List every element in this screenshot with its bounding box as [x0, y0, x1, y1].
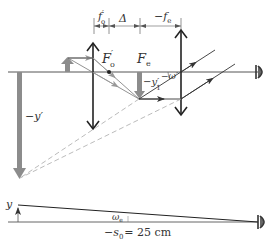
- final-image-label: −y′: [25, 110, 43, 123]
- intermediate-image-label: −y′1: [143, 76, 161, 92]
- naked-eye-ray: [18, 205, 258, 222]
- eyepiece-rays: [139, 50, 235, 99]
- focal-point-fo: [107, 70, 111, 74]
- fe-label: −fe: [154, 10, 171, 25]
- naked-eye-angle-label: ωe: [112, 212, 123, 223]
- focal-fe-label: Fe: [136, 51, 151, 68]
- final-image-arrow: [13, 72, 26, 179]
- virtual-extensions: [20, 99, 181, 178]
- fo-label: f′o: [97, 8, 105, 26]
- focal-fo-label: F′o: [101, 49, 115, 69]
- distance-label: −s0= 25 cm: [104, 226, 172, 241]
- eye-icon-bottom: [258, 215, 264, 229]
- object-arrow: [61, 57, 74, 72]
- objective-lens: [87, 43, 99, 129]
- microscope-diagram: f′o Δ −fe: [0, 0, 274, 244]
- naked-eye-comparison: [8, 205, 258, 222]
- bottom-object-label: y: [5, 198, 13, 211]
- angle-omega-prime-label: −ω′: [161, 71, 178, 81]
- delta-label: Δ: [118, 12, 127, 25]
